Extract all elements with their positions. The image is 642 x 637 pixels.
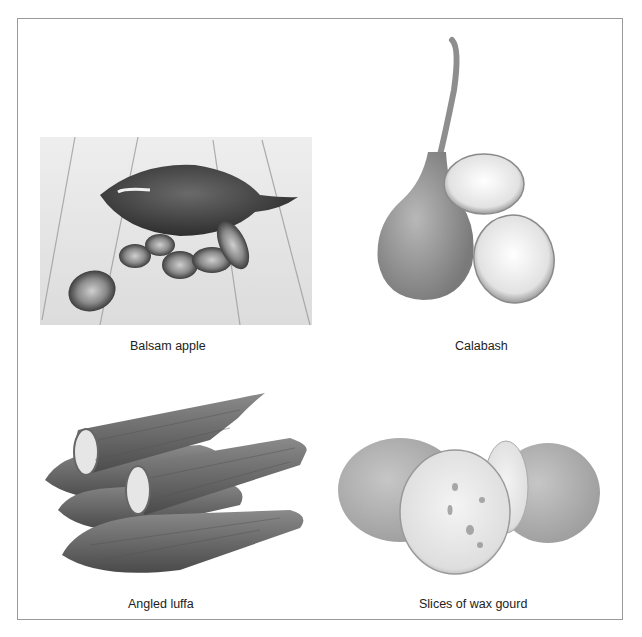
- caption-wax-gourd: Slices of wax gourd: [419, 597, 527, 611]
- wax-gourd-photo: [0, 0, 642, 637]
